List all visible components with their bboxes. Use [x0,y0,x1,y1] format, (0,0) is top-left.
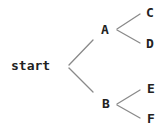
node-start: start [11,59,50,72]
node-e: E [147,82,155,95]
edge-b-e [117,90,140,104]
node-f: F [147,112,155,125]
edge-a-c [117,14,140,29]
node-a: A [101,23,109,36]
edge-b-f [117,105,140,118]
node-b: B [102,97,110,110]
edge-a-d [117,30,140,43]
node-d: D [146,37,154,50]
edge-start-a [69,40,93,65]
edge-start-b [69,68,93,92]
node-c: C [146,6,154,19]
tree-diagram: start A B C D E F [0,0,164,130]
